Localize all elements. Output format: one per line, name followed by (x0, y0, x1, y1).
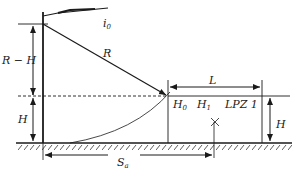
zone-label: LPZ 1 (224, 98, 258, 111)
equipment-point-marker (211, 118, 219, 158)
h0-label: H0 (172, 98, 188, 112)
ground (16, 143, 292, 150)
current-label: i0 (103, 17, 112, 31)
h1-label: H1 (196, 98, 211, 112)
lightning-protection-diagram: i0 R R − H H L H0 H1 LPZ 1 H Sa (0, 0, 296, 170)
distance-sa-label: Sa (117, 156, 129, 170)
height-left-label: H (17, 113, 28, 126)
height-right-label: H (275, 118, 286, 131)
radius-label: R (102, 47, 111, 60)
lightning-rod (43, 8, 108, 143)
distance-l-label: L (208, 74, 216, 87)
protection-arc (70, 92, 170, 143)
r-minus-h-label: R − H (1, 54, 36, 67)
